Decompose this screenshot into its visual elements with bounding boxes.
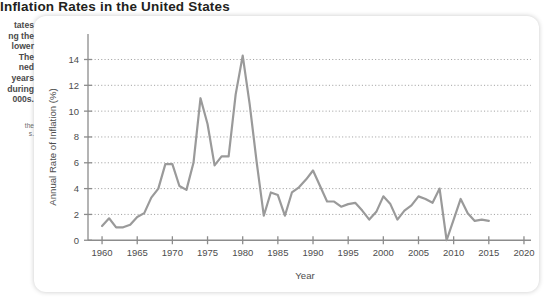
svg-text:2020: 2020 [513, 247, 534, 258]
gridlines [88, 59, 531, 214]
y-tick-labels: 02468101214 [68, 54, 79, 246]
svg-text:10: 10 [68, 106, 79, 117]
svg-text:1965: 1965 [127, 247, 148, 258]
inflation-line-chart: 02468101214 1960196519701975198019851990… [0, 0, 551, 306]
svg-text:2: 2 [74, 209, 79, 220]
svg-text:1980: 1980 [232, 247, 253, 258]
svg-text:12: 12 [68, 80, 79, 91]
svg-text:1970: 1970 [162, 247, 183, 258]
chart-plot-area: 02468101214 1960196519701975198019851990… [0, 0, 551, 306]
svg-text:4: 4 [74, 183, 79, 194]
x-axis-title: Year [295, 270, 315, 281]
y-axis-title: Annual Rate of Inflation (%) [47, 88, 58, 205]
svg-text:14: 14 [68, 54, 79, 65]
svg-text:1975: 1975 [197, 247, 218, 258]
svg-text:2015: 2015 [478, 247, 499, 258]
svg-text:1995: 1995 [338, 247, 359, 258]
svg-text:0: 0 [74, 235, 79, 246]
x-tick-labels: 1960196519701975198019851990199520002005… [91, 247, 534, 258]
svg-text:2005: 2005 [408, 247, 429, 258]
svg-text:8: 8 [74, 131, 79, 142]
inflation-series-line [102, 56, 489, 241]
svg-text:6: 6 [74, 157, 79, 168]
svg-text:2000: 2000 [373, 247, 394, 258]
axes [84, 34, 531, 244]
svg-text:2010: 2010 [443, 247, 464, 258]
svg-text:1990: 1990 [302, 247, 323, 258]
svg-text:1960: 1960 [91, 247, 112, 258]
svg-text:1985: 1985 [267, 247, 288, 258]
